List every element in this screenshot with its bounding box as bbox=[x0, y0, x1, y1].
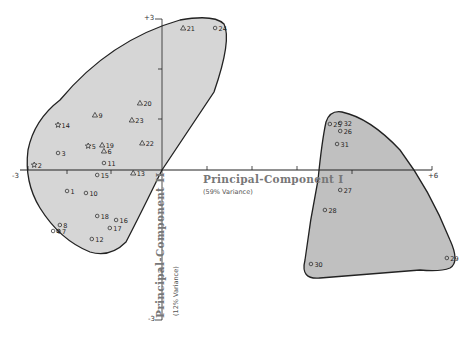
y-axis-subtitle: (12% Variance) bbox=[172, 266, 180, 316]
point-label: 13 bbox=[137, 170, 145, 178]
point-label: 30 bbox=[314, 261, 322, 269]
cluster-b-hull bbox=[304, 112, 455, 278]
point-label: 1 bbox=[71, 188, 75, 196]
point-label: 31 bbox=[341, 141, 349, 149]
point-label: 12 bbox=[95, 236, 103, 244]
point-label: 24 bbox=[219, 25, 227, 33]
circle-marker-icon bbox=[51, 229, 55, 233]
point-label: 3 bbox=[62, 150, 66, 158]
point-label: 21 bbox=[187, 25, 195, 33]
point-label: 27 bbox=[344, 187, 352, 195]
point-label: 29 bbox=[450, 255, 458, 263]
point-label: 14 bbox=[62, 122, 70, 130]
point-label: 32 bbox=[344, 120, 352, 128]
point-label: 28 bbox=[328, 207, 336, 215]
point-label: 18 bbox=[101, 213, 109, 221]
x-min-tick-label: -3 bbox=[12, 172, 19, 180]
point-label: 26 bbox=[344, 128, 352, 136]
point-label: 19 bbox=[106, 142, 114, 150]
point-label: 23 bbox=[135, 117, 143, 125]
point-label: 17 bbox=[113, 225, 121, 233]
point-label: 15 bbox=[101, 172, 109, 180]
x-axis-title: Principal-Component I bbox=[203, 173, 343, 185]
point-label: 22 bbox=[146, 140, 154, 148]
y-max-tick-label: +3 bbox=[144, 14, 154, 22]
point-label: 2 bbox=[38, 162, 42, 170]
point-label: 10 bbox=[89, 190, 97, 198]
x-axis-subtitle: (59% Variance) bbox=[203, 188, 253, 196]
point-label: 11 bbox=[107, 160, 115, 168]
point-label: 9 bbox=[98, 112, 102, 120]
point-label: 20 bbox=[143, 100, 151, 108]
point-label: 8 bbox=[63, 222, 67, 230]
x-max-tick-label: +6 bbox=[428, 172, 438, 180]
pca-scatter-plot: 1234567891011121314151617181920212223242… bbox=[0, 0, 469, 337]
point-label: 5 bbox=[92, 143, 96, 151]
y-axis-title: Principal-Component II bbox=[154, 172, 166, 318]
point-label: 16 bbox=[120, 217, 128, 225]
